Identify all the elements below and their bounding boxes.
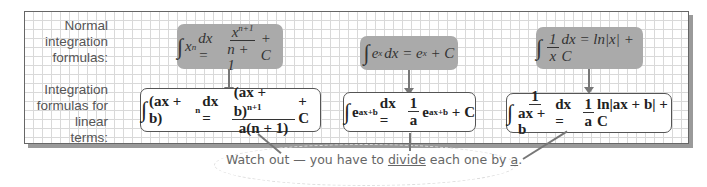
log-rule-formula: ∫ 1 x dx = ln|x| + C <box>536 27 643 69</box>
term: dx = e <box>384 45 422 62</box>
fraction: 1 a <box>408 96 420 128</box>
exponent: n <box>192 42 197 52</box>
exponent: n+1 <box>247 102 262 112</box>
down-arrow-icon <box>228 69 230 89</box>
normal-formulas-label: Normal integration formulas: <box>40 18 108 66</box>
fraction: xn+1 n + 1 <box>227 21 257 73</box>
numerator: 1 <box>547 32 559 48</box>
fraction: 1 ax + b <box>518 89 552 137</box>
linear-exponential-rule-formula: ∫ eax+b dx = 1 a eax+b + C <box>343 92 476 132</box>
term: (ax + b) <box>149 93 195 127</box>
term: dx = ln|x| + C <box>562 31 643 65</box>
exponent: ax+b <box>359 107 378 117</box>
denominator: a(n + 1) <box>239 120 288 136</box>
note-text: each one by <box>426 152 511 167</box>
exponent: ax+b <box>429 107 448 117</box>
numerator: 1 <box>529 89 541 105</box>
label-line: integration <box>40 34 108 50</box>
fraction: 1 a <box>583 97 595 129</box>
linear-power-rule-formula: ∫ (ax + b)n dx = (ax + b)n+1 a(n + 1) + … <box>140 88 321 132</box>
pointer-arrow-icon <box>409 133 411 151</box>
term: + C <box>298 93 320 127</box>
term: e <box>422 104 429 121</box>
term: dx = <box>380 95 405 129</box>
denominator: a <box>410 112 418 128</box>
note-variable: a <box>510 152 518 167</box>
label-line: linear terms: <box>36 114 108 146</box>
note-text: . <box>518 152 522 167</box>
exponent: x <box>378 48 382 58</box>
down-arrow-icon <box>588 69 590 89</box>
linear-log-rule-formula: ∫ 1 ax + b dx = 1 a ln|ax + b| + C <box>506 93 672 133</box>
label-line: Integration <box>36 82 108 98</box>
down-arrow-icon <box>408 70 410 90</box>
denominator: x <box>549 48 556 64</box>
exponential-rule-formula: ∫ ex dx = ex + C <box>360 36 458 70</box>
numerator: 1 <box>583 97 595 113</box>
denominator: a <box>585 113 593 129</box>
integral-sign-icon: ∫ <box>364 42 370 64</box>
note-text: Watch out — you have to <box>226 152 388 167</box>
power-rule-formula: ∫ xn dx = xn+1 n + 1 + C <box>177 24 283 69</box>
label-line: formulas: <box>40 50 108 66</box>
linear-formulas-label: Integration formulas for linear terms: <box>36 82 108 146</box>
term: + C <box>448 104 475 121</box>
fraction: (ax + b)n+1 a(n + 1) <box>232 85 296 136</box>
divide-by-a-note: Watch out — you have to divide each one … <box>226 152 522 167</box>
integral-sign-icon: ∫ <box>344 101 350 123</box>
integral-sign-icon: ∫ <box>141 99 147 121</box>
term: + C <box>427 45 455 62</box>
term: x <box>185 38 192 55</box>
fraction: 1 x <box>547 32 559 64</box>
denominator: n + 1 <box>227 41 257 73</box>
numerator: 1 <box>408 96 420 112</box>
integral-sign-icon: ∫ <box>536 37 542 59</box>
denominator: ax + b <box>518 105 552 137</box>
term: ln|ax + b| + C <box>597 96 671 130</box>
term: dx = <box>202 93 228 127</box>
integral-sign-icon: ∫ <box>507 102 513 124</box>
term: dx = <box>555 96 579 130</box>
term: + C <box>261 30 283 64</box>
integral-sign-icon: ∫ <box>177 36 183 58</box>
term: e <box>352 104 359 121</box>
label-line: Normal <box>40 18 108 34</box>
exponent: n+1 <box>238 23 253 33</box>
exponent: n <box>195 105 200 115</box>
label-line: formulas for <box>36 98 108 114</box>
term: dx = <box>198 30 224 64</box>
note-emphasis: divide <box>388 152 426 167</box>
